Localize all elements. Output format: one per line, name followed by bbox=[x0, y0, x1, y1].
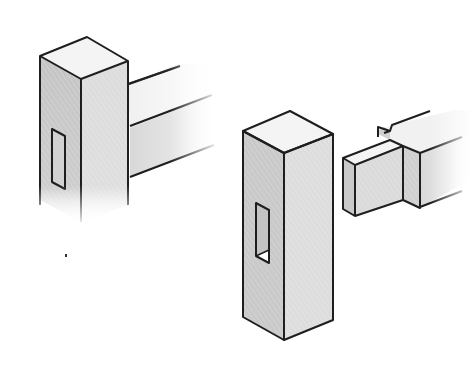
stray-dot bbox=[65, 254, 67, 257]
mortise-outline bbox=[52, 129, 65, 189]
exploded-joint bbox=[243, 100, 475, 340]
mortise-hole bbox=[256, 203, 269, 263]
joinery-illustration bbox=[0, 0, 475, 365]
mortise-post bbox=[243, 111, 333, 340]
assembled-joint bbox=[35, 37, 225, 257]
